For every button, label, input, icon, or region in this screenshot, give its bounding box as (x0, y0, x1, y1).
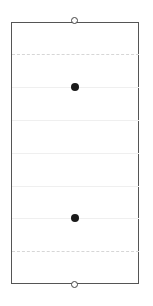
grid-line (12, 120, 139, 121)
open-circle-bottom-icon (71, 281, 78, 288)
dashed-line-bottom (12, 251, 139, 252)
open-circle-top-icon (71, 17, 78, 24)
filled-dot-upper-icon (71, 83, 79, 91)
filled-dot-lower-icon (71, 214, 79, 222)
dashed-line-top (12, 54, 139, 55)
grid-line (12, 153, 139, 154)
grid-line (12, 186, 139, 187)
